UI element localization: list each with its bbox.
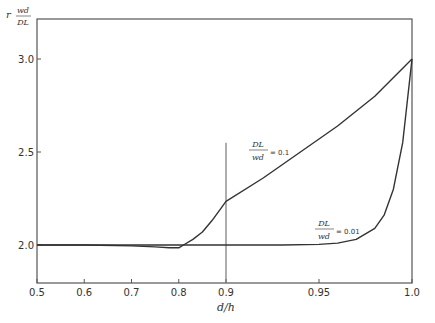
y-axis-label-prefix: r [6,9,12,20]
x-tick-label: 0.5 [29,287,45,298]
y-tick-label: 2.0 [18,240,34,251]
labels-group: d/hrwdDLDLwd= 0.1DLwd= 0.01 [6,6,360,314]
series-label-denominator: wd [318,232,330,241]
plot-frame [37,19,412,283]
series-label-numerator: DL [317,219,330,228]
y-tick-label: 3.0 [18,54,34,65]
x-tick-label: 0.95 [308,287,330,298]
series-label-numerator: DL [251,140,264,149]
x-tick-label: 0.7 [124,287,140,298]
x-axis-label: d/h [217,301,235,314]
series-line-1 [37,59,412,245]
chart: 0.50.60.70.80.90.951.02.02.53.0 d/hrwdDL… [0,0,435,323]
series-label-denominator: wd [252,153,264,162]
series-line-0 [37,59,412,248]
axes: 0.50.60.70.80.90.951.02.02.53.0 [18,19,420,298]
series-label-value: = 0.1 [270,149,289,157]
y-tick-label: 2.5 [18,147,34,158]
x-tick-label: 0.6 [76,287,92,298]
x-tick-label: 0.8 [171,287,187,298]
x-tick-label: 1.0 [404,287,420,298]
y-axis-label-numerator: wd [17,6,29,15]
series-label-value: = 0.01 [336,228,360,236]
series-group [37,59,412,248]
x-tick-label: 0.9 [218,287,234,298]
y-axis-label-denominator: DL [16,18,29,27]
